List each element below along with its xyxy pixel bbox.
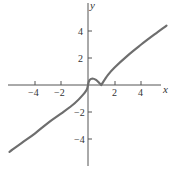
y-tick-label-2: 2 (78, 53, 83, 64)
x-tick-label-4: 4 (138, 87, 143, 98)
y-tick-label-neg2: −2 (74, 107, 85, 118)
plot-area: −4 −2 2 4 4 2 −2 −4 x y (0, 0, 171, 171)
x-axis-label: x (162, 83, 168, 95)
x-tick-label-neg2: −2 (54, 87, 65, 98)
x-tick-label-neg4: −4 (28, 87, 39, 98)
y-tick-label-4: 4 (78, 26, 83, 37)
function-graph: −4 −2 2 4 4 2 −2 −4 x y (0, 0, 171, 171)
y-tick-label-neg4: −4 (74, 134, 85, 145)
y-axis-label: y (89, 0, 95, 11)
x-tick-label-2: 2 (112, 87, 117, 98)
